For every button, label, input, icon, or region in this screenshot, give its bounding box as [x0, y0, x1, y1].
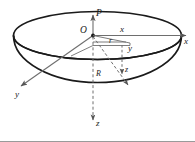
- x-axis-group: x x: [93, 24, 188, 46]
- z-axis-outer-label: z: [95, 118, 100, 128]
- projection-parallelogram-group: r: [71, 36, 130, 57]
- x-axis-inner-label: x: [119, 24, 124, 34]
- origin-label: O: [80, 25, 87, 35]
- y-axis-inner-label: y: [127, 43, 132, 53]
- radius-R-label: R: [95, 69, 101, 78]
- z-inner-label: z: [124, 65, 129, 74]
- y-axis-group: y y: [14, 36, 132, 100]
- figure-canvas: x x y y z P O r: [0, 0, 195, 142]
- x-axis-outer-label: x: [183, 36, 188, 46]
- projection-left-edge: [71, 46, 93, 57]
- radius-r-label: r: [109, 36, 113, 45]
- hemisphere-coordinate-figure: x x y y z P O r: [0, 0, 195, 142]
- inner-rim-front-arc: [14, 36, 182, 60]
- inner-rim-arc-group: [14, 36, 182, 60]
- y-axis-line: [21, 36, 93, 87]
- y-axis-outer-label: y: [14, 89, 19, 99]
- point-p-label: P: [95, 8, 102, 18]
